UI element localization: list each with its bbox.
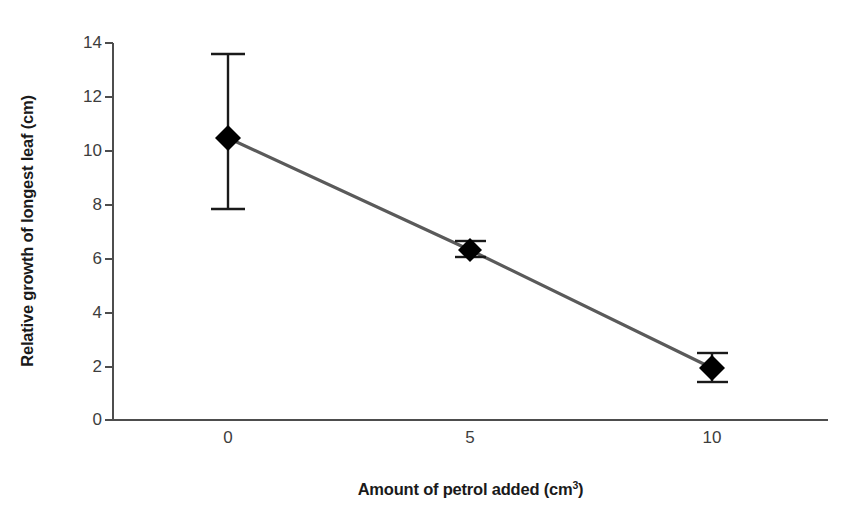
data-point-marker-2 <box>699 355 725 381</box>
chart-figure: Relative growth of longest leaf (cm) Amo… <box>0 0 866 528</box>
y-axis-ticks <box>105 43 113 420</box>
plot-area <box>0 0 866 528</box>
data-point-marker-0 <box>215 125 241 151</box>
